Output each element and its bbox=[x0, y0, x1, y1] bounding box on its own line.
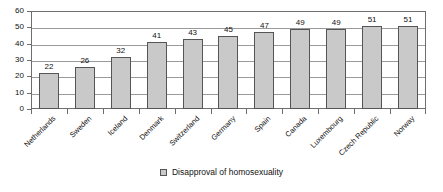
bar-slot: 32 bbox=[103, 11, 139, 109]
bar-value-label: 51 bbox=[368, 16, 377, 24]
x-tick-label-text: Denmark bbox=[137, 114, 165, 142]
x-tick-label-text: Luxembourg bbox=[309, 114, 345, 150]
bar-value-label: 47 bbox=[260, 22, 269, 30]
y-tick-label: 60 bbox=[15, 7, 24, 15]
bar-value-label: 49 bbox=[332, 19, 341, 27]
legend-entry-label: Disapproval of homosexuality bbox=[172, 168, 283, 177]
bar-value-label: 41 bbox=[152, 32, 161, 40]
y-tick-label: 10 bbox=[15, 89, 24, 97]
bar[interactable] bbox=[290, 29, 310, 109]
y-tick-label: 30 bbox=[15, 56, 24, 64]
x-tick-label-text: Germany bbox=[209, 114, 237, 142]
y-tick-label: 40 bbox=[15, 40, 24, 48]
legend-swatch-icon bbox=[160, 169, 167, 176]
x-axis-labels: NetherlandsSwedenIcelandDenmarkSwitzerla… bbox=[31, 114, 443, 164]
bar-slot: 41 bbox=[139, 11, 175, 109]
y-tick-label: 20 bbox=[15, 72, 24, 80]
bar[interactable] bbox=[39, 73, 59, 109]
bar-value-label: 43 bbox=[188, 29, 197, 37]
bar-value-label: 32 bbox=[116, 47, 125, 55]
y-axis: 0102030405060 bbox=[0, 0, 31, 120]
x-tick-label-text: Switzerland bbox=[167, 114, 201, 148]
bar-value-label: 51 bbox=[404, 16, 413, 24]
bar[interactable] bbox=[326, 29, 346, 109]
x-tick-label-text: Sweden bbox=[68, 114, 94, 140]
chart-legend: Disapproval of homosexuality bbox=[0, 168, 443, 177]
y-tick-label: 50 bbox=[15, 23, 24, 31]
bar-slot: 49 bbox=[318, 11, 354, 109]
bar-value-label: 45 bbox=[224, 26, 233, 34]
bar-chart: 0102030405060 2226324143454749495151 Net… bbox=[0, 0, 443, 192]
x-tick-label-text: Canada bbox=[284, 114, 309, 139]
bar-value-label: 26 bbox=[80, 57, 89, 65]
x-tick-label-text: Iceland bbox=[106, 114, 129, 137]
bar-slot: 49 bbox=[282, 11, 318, 109]
y-tick-label: 0 bbox=[20, 105, 24, 113]
x-tick-label-text: Spain bbox=[253, 114, 273, 134]
bar[interactable] bbox=[111, 57, 131, 109]
bar-value-label: 22 bbox=[45, 63, 54, 71]
x-tick-label-text: Norway bbox=[392, 114, 416, 138]
bar-slot: 22 bbox=[31, 11, 67, 109]
bar[interactable] bbox=[147, 42, 167, 109]
legend-entry: Disapproval of homosexuality bbox=[160, 168, 283, 177]
bar-value-label: 49 bbox=[296, 19, 305, 27]
